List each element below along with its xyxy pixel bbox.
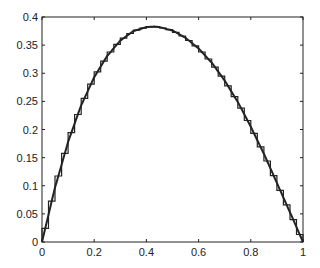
curve-series [42, 27, 303, 242]
tick-labels: 00.20.40.60.8100.050.10.150.20.250.30.35… [17, 11, 306, 258]
svg-text:0.4: 0.4 [23, 11, 38, 23]
svg-text:0.4: 0.4 [139, 246, 154, 258]
svg-text:0.6: 0.6 [191, 246, 206, 258]
svg-text:0.25: 0.25 [17, 95, 38, 107]
svg-text:0.2: 0.2 [23, 124, 38, 136]
svg-text:0.2: 0.2 [87, 246, 102, 258]
staircase-series [42, 27, 303, 242]
svg-text:0: 0 [32, 236, 38, 248]
svg-text:0.8: 0.8 [243, 246, 258, 258]
axes-frame [42, 17, 303, 242]
svg-text:1: 1 [300, 246, 306, 258]
svg-text:0.05: 0.05 [17, 208, 38, 220]
svg-text:0.3: 0.3 [23, 67, 38, 79]
chart: 00.20.40.60.8100.050.10.150.20.250.30.35… [0, 0, 320, 268]
svg-text:0.35: 0.35 [17, 39, 38, 51]
svg-text:0: 0 [39, 246, 45, 258]
svg-text:0.1: 0.1 [23, 180, 38, 192]
svg-text:0.15: 0.15 [17, 152, 38, 164]
